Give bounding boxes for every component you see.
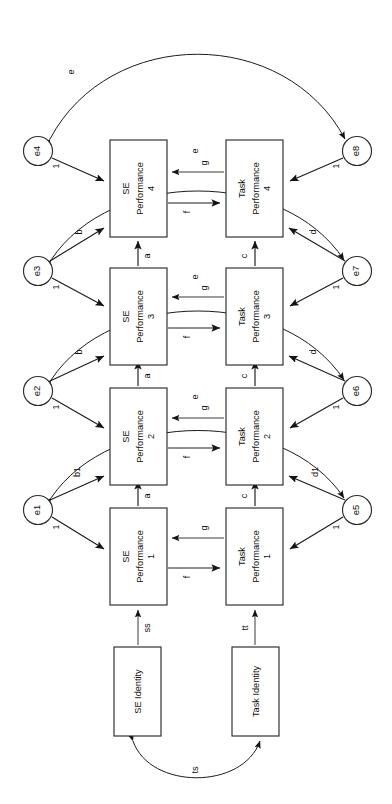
path-labels: e e e e 1 1 1 1 1 1 1 1 b b b1 d d d1 a … xyxy=(51,69,341,773)
label-loading-e6: 1 xyxy=(331,404,341,409)
box-task-performance-2-line1: Task xyxy=(237,427,247,446)
label-loading-e3: 1 xyxy=(51,284,61,289)
box-se-performance-2-line1: SE xyxy=(121,430,131,442)
label-se-autoregressive-a-3-4: a xyxy=(142,253,152,259)
loading-e1-to-se1 xyxy=(52,517,104,549)
circle-e2-label: e2 xyxy=(31,386,42,396)
circle-e2[interactable]: e2 xyxy=(24,377,53,406)
label-error-cross-b-e3: b xyxy=(74,229,84,234)
cross-construct-paths xyxy=(168,172,224,568)
box-task-performance-4-line3: 4 xyxy=(262,186,272,191)
box-se-performance-2-line2: Performance xyxy=(135,410,145,463)
label-loading-e7: 1 xyxy=(331,284,341,289)
label-error-correlation-e1-e5: e xyxy=(190,394,200,399)
error-cross-paths-left xyxy=(50,228,104,500)
circle-e8-label: e8 xyxy=(350,146,361,156)
label-cross-g-1: g xyxy=(199,525,209,530)
label-loading-e4: 1 xyxy=(51,163,61,168)
latent-boxes: SE Performance 4 SE Performance 3 SE Per… xyxy=(110,140,283,605)
loading-e4-to-se4 xyxy=(52,158,104,181)
box-task-performance-2[interactable]: Task Performance 2 xyxy=(226,388,283,485)
label-error-correlation-e3-e7: e xyxy=(190,148,200,153)
error-path-e2-to-se3 xyxy=(50,356,104,381)
error-path-e6-to-task3 xyxy=(289,356,345,381)
box-task-identity-label: Task Identity xyxy=(251,666,261,717)
loading-e5-to-task1 xyxy=(290,517,343,549)
box-task-performance-1[interactable]: Task Performance 1 xyxy=(226,508,283,605)
box-task-performance-4-line1: Task xyxy=(237,179,247,198)
box-task-performance-4[interactable]: Task Performance 4 xyxy=(226,140,283,237)
error-unit-loadings xyxy=(52,158,343,549)
label-cross-g-3: g xyxy=(199,285,209,290)
circle-e8[interactable]: e8 xyxy=(343,137,372,166)
circle-e4[interactable]: e4 xyxy=(24,137,53,166)
error-correlation-arc-e1-e5 xyxy=(51,431,344,499)
box-se-performance-1-line2: Performance xyxy=(135,530,145,583)
label-task-autoregressive-c-1-2: c xyxy=(239,493,249,498)
label-error-cross-d-e7: d xyxy=(308,229,318,234)
box-task-performance-1-line2: Performance xyxy=(251,530,261,583)
circle-e5[interactable]: e5 xyxy=(343,496,372,525)
box-se-identity[interactable]: SE Identity xyxy=(114,647,161,736)
label-cross-f-1: f xyxy=(182,575,192,578)
error-correlation-arc-e3-e7 xyxy=(51,191,344,260)
label-error-cross-d-e6: d xyxy=(308,349,318,354)
label-cross-f-3: f xyxy=(182,335,192,338)
circle-e7-label: e7 xyxy=(350,266,361,276)
circle-e5-label: e5 xyxy=(350,505,361,515)
loading-e8-to-task4 xyxy=(290,158,343,181)
loading-e3-to-se3 xyxy=(52,278,104,306)
box-se-performance-3[interactable]: SE Performance 3 xyxy=(110,268,167,365)
label-error-cross-d1-e5: d1 xyxy=(310,467,320,477)
box-se-performance-2-line3: 2 xyxy=(146,434,156,439)
box-se-performance-1[interactable]: SE Performance 1 xyxy=(110,508,167,605)
loading-e2-to-se2 xyxy=(52,398,104,428)
circle-e3-label: e3 xyxy=(31,266,42,276)
box-task-performance-1-line3: 1 xyxy=(262,554,272,559)
error-correlation-arc-e2-e6 xyxy=(51,311,344,380)
label-cross-f-4: f xyxy=(182,210,192,213)
box-se-performance-4-line1: SE xyxy=(121,182,131,194)
label-error-cross-b-e2: b xyxy=(74,349,84,354)
circle-e4-label: e4 xyxy=(31,146,42,156)
circle-e6[interactable]: e6 xyxy=(343,377,372,406)
box-task-performance-3-line3: 3 xyxy=(262,314,272,319)
box-task-identity[interactable]: Task Identity xyxy=(232,647,279,736)
label-identity-loading-tt: tt xyxy=(240,625,250,631)
loading-e7-to-task3 xyxy=(290,278,343,306)
circle-e1[interactable]: e1 xyxy=(24,496,53,525)
box-task-performance-3-line2: Performance xyxy=(251,290,261,343)
error-circles: e4 e3 e2 e1 e8 e7 e6 e5 xyxy=(24,137,372,525)
box-task-performance-3-line1: Task xyxy=(237,307,247,326)
label-identity-correlation-ts: ts xyxy=(190,766,200,774)
error-cross-paths-right xyxy=(289,228,345,500)
label-error-correlation-e4-e8: e xyxy=(66,69,76,74)
label-cross-g-2: g xyxy=(199,405,209,410)
box-task-performance-2-line3: 2 xyxy=(262,434,272,439)
circle-e7[interactable]: e7 xyxy=(343,257,372,286)
circle-e3[interactable]: e3 xyxy=(24,257,53,286)
circle-e6-label: e6 xyxy=(350,386,361,396)
label-task-autoregressive-c-2-3: c xyxy=(239,373,249,378)
box-se-performance-4[interactable]: SE Performance 4 xyxy=(110,140,167,237)
box-se-identity-label: SE Identity xyxy=(133,669,143,714)
box-se-performance-2[interactable]: SE Performance 2 xyxy=(110,388,167,485)
label-loading-e8: 1 xyxy=(331,163,341,168)
box-se-performance-3-line1: SE xyxy=(121,310,131,322)
box-se-performance-3-line3: 3 xyxy=(146,314,156,319)
sem-path-diagram: SE Performance 4 SE Performance 3 SE Per… xyxy=(0,0,392,804)
label-error-correlation-e2-e6: e xyxy=(190,274,200,279)
box-task-performance-1-line1: Task xyxy=(237,547,247,566)
label-identity-loading-ss: ss xyxy=(142,623,152,633)
figure-canvas: SE Performance 4 SE Performance 3 SE Per… xyxy=(0,0,392,804)
label-loading-e5: 1 xyxy=(331,524,341,529)
box-se-performance-1-line1: SE xyxy=(121,550,131,562)
identity-loading-paths xyxy=(138,610,255,645)
box-task-performance-2-line2: Performance xyxy=(251,410,261,463)
label-task-autoregressive-c-3-4: c xyxy=(239,253,249,258)
box-se-performance-4-line3: 4 xyxy=(146,186,156,191)
label-se-autoregressive-a-2-3: a xyxy=(142,373,152,379)
label-loading-e1: 1 xyxy=(51,524,61,529)
box-se-performance-3-line2: Performance xyxy=(135,290,145,343)
box-task-performance-3[interactable]: Task Performance 3 xyxy=(226,268,283,365)
